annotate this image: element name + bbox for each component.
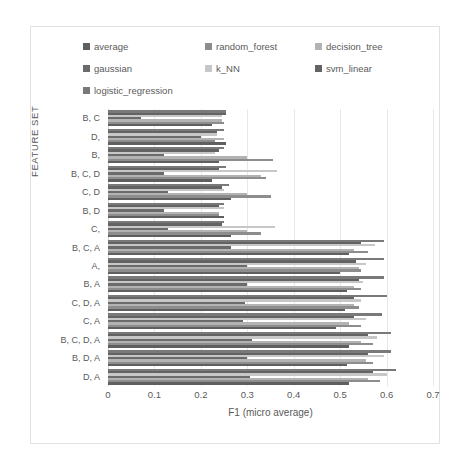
bar-average[interactable] bbox=[108, 124, 212, 126]
x-tick-label: 0.6 bbox=[380, 389, 393, 400]
bar-average[interactable] bbox=[108, 253, 349, 255]
y-tick-label: B, D bbox=[82, 206, 100, 216]
legend-item-average[interactable]: average bbox=[83, 41, 205, 52]
bar-group bbox=[108, 312, 433, 330]
x-axis-tick-labels: 00.10.20.30.40.50.60.7 bbox=[108, 389, 433, 405]
bar-group bbox=[108, 331, 433, 349]
x-tick-label: 0.7 bbox=[426, 389, 439, 400]
bar-group bbox=[108, 294, 433, 312]
x-tick-label: 0.3 bbox=[241, 389, 254, 400]
bar-average[interactable] bbox=[108, 327, 336, 329]
bar-average[interactable] bbox=[108, 142, 226, 144]
x-tick-label: 0.5 bbox=[334, 389, 347, 400]
legend-swatch-icon bbox=[205, 65, 212, 72]
legend-item-decision-tree[interactable]: decision_tree bbox=[315, 41, 423, 52]
bar-average[interactable] bbox=[108, 161, 219, 163]
legend-item-svm-linear[interactable]: svm_linear bbox=[315, 63, 423, 74]
legend-label: random_forest bbox=[216, 41, 277, 52]
x-tick-label: 0 bbox=[105, 389, 110, 400]
gridline bbox=[433, 109, 434, 386]
legend-label: gaussian bbox=[94, 63, 132, 74]
y-tick-label: A, bbox=[91, 261, 100, 271]
y-tick-label: B, C bbox=[82, 113, 100, 123]
legend-swatch-icon bbox=[315, 65, 322, 72]
y-tick-label: B, C, A bbox=[72, 243, 100, 253]
legend-swatch-icon bbox=[83, 65, 90, 72]
x-tick-label: 0.2 bbox=[194, 389, 207, 400]
bar-group bbox=[108, 127, 433, 145]
legend-row: logistic_regression bbox=[83, 79, 423, 101]
legend-item-random-forest[interactable]: random_forest bbox=[205, 41, 315, 52]
bar-group bbox=[108, 146, 433, 164]
y-tick-label: B, C, D bbox=[71, 169, 100, 179]
y-tick-label: B, bbox=[91, 150, 100, 160]
x-tick-label: 0.4 bbox=[287, 389, 300, 400]
chart-figure: averagerandom_forestdecision_treegaussia… bbox=[30, 26, 440, 444]
bar-group bbox=[108, 275, 433, 293]
legend-label: svm_linear bbox=[326, 63, 372, 74]
bar-group bbox=[108, 257, 433, 275]
legend-label: average bbox=[94, 41, 128, 52]
y-tick-label: B, D, A bbox=[72, 353, 100, 363]
legend-swatch-icon bbox=[315, 43, 322, 50]
bar-average[interactable] bbox=[108, 345, 349, 347]
y-tick-label: D, A bbox=[83, 372, 100, 382]
legend-item-logistic-regression[interactable]: logistic_regression bbox=[83, 85, 205, 96]
bar-average[interactable] bbox=[108, 382, 349, 384]
bar-group bbox=[108, 368, 433, 386]
bar-average[interactable] bbox=[108, 179, 212, 181]
legend-label: decision_tree bbox=[326, 41, 383, 52]
plot-area bbox=[108, 109, 433, 386]
bar-average[interactable] bbox=[108, 364, 347, 366]
bar-average[interactable] bbox=[108, 290, 347, 292]
legend-item-k-NN[interactable]: k_NN bbox=[205, 63, 315, 74]
legend-swatch-icon bbox=[205, 43, 212, 50]
legend-row: averagerandom_forestdecision_tree bbox=[83, 35, 423, 57]
y-tick-label: D, bbox=[91, 132, 100, 142]
legend-swatch-icon bbox=[83, 87, 90, 94]
bar-average[interactable] bbox=[108, 309, 345, 311]
legend-label: k_NN bbox=[216, 63, 240, 74]
bar-average[interactable] bbox=[108, 272, 340, 274]
x-tick-label: 0.1 bbox=[148, 389, 161, 400]
y-tick-label: C, D, A bbox=[71, 298, 100, 308]
bar-group bbox=[108, 220, 433, 238]
bar-group bbox=[108, 109, 433, 127]
bar-group bbox=[108, 238, 433, 256]
bar-average[interactable] bbox=[108, 235, 231, 237]
bar-average[interactable] bbox=[108, 216, 224, 218]
y-tick-label: C, bbox=[91, 224, 100, 234]
bar-average[interactable] bbox=[108, 198, 231, 200]
chart-legend: averagerandom_forestdecision_treegaussia… bbox=[83, 35, 423, 101]
bar-group bbox=[108, 183, 433, 201]
bar-group bbox=[108, 201, 433, 219]
bar-group bbox=[108, 349, 433, 367]
legend-item-gaussian[interactable]: gaussian bbox=[83, 63, 205, 74]
legend-label: logistic_regression bbox=[94, 85, 173, 96]
y-tick-label: C, A bbox=[83, 316, 100, 326]
legend-swatch-icon bbox=[83, 43, 90, 50]
bar-groups bbox=[108, 109, 433, 386]
y-tick-label: B, C, D, A bbox=[60, 335, 100, 345]
y-tick-label: C, D bbox=[82, 187, 100, 197]
legend-row: gaussiank_NNsvm_linear bbox=[83, 57, 423, 79]
bar-group bbox=[108, 164, 433, 182]
y-tick-label: B, A bbox=[83, 279, 100, 289]
x-axis-title: F1 (micro average) bbox=[108, 407, 433, 418]
y-axis-tick-labels: B, CD,B,B, C, DC, DB, DC,B, C, AA,B, AC,… bbox=[31, 109, 104, 386]
